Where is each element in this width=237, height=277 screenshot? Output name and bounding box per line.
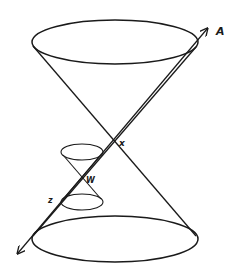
large-cone [32, 20, 198, 262]
small-cone-top-ellipse [61, 144, 103, 160]
label-w: W [86, 176, 96, 185]
large-cone-top-ellipse [32, 20, 198, 64]
label-a: A [215, 25, 225, 38]
label-x: x [118, 138, 126, 148]
large-cone-bottom-ellipse [32, 216, 198, 262]
time-axis-arrow [18, 29, 207, 253]
light-cone-diagram: A x W z [0, 0, 237, 277]
label-z: z [47, 196, 53, 205]
small-cone-bottom-ellipse [61, 194, 103, 210]
